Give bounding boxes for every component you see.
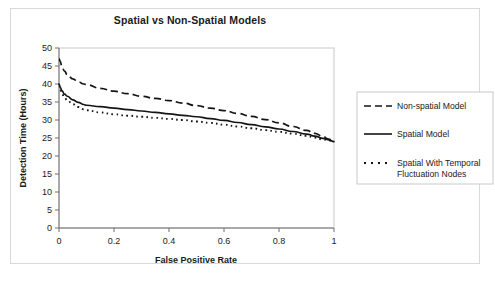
y-tick-label: 0 bbox=[47, 223, 52, 233]
y-tick-label: 5 bbox=[47, 205, 52, 215]
plot-axes bbox=[59, 48, 334, 228]
data-series-group bbox=[59, 59, 334, 142]
y-tick-label: 20 bbox=[42, 151, 52, 161]
chart-figure: Spatial vs Non-Spatial Models 0510152025… bbox=[0, 0, 495, 282]
legend-item-label-line2: Fluctuation Nodes bbox=[397, 169, 466, 179]
y-axis-ticks: 05101520253035404550 bbox=[42, 43, 59, 233]
y-tick-label: 25 bbox=[42, 133, 52, 143]
x-axis-ticks: 00.20.40.60.81 bbox=[56, 228, 336, 246]
y-tick-label: 30 bbox=[42, 115, 52, 125]
series-line-dotted bbox=[59, 85, 334, 141]
legend-item-label: Non-spatial Model bbox=[397, 101, 466, 111]
y-tick-label: 45 bbox=[42, 61, 52, 71]
y-tick-label: 10 bbox=[42, 187, 52, 197]
series-line-dashed bbox=[59, 59, 334, 142]
plot-area-box bbox=[59, 48, 334, 228]
x-axis-title: False Positive Rate bbox=[155, 255, 237, 265]
x-tick-label: 0.2 bbox=[108, 236, 121, 246]
y-tick-label: 40 bbox=[42, 79, 52, 89]
series-line-solid bbox=[59, 84, 334, 142]
x-tick-label: 0.4 bbox=[163, 236, 176, 246]
plot-canvas: 05101520253035404550 00.20.40.60.81 Dete… bbox=[0, 0, 495, 282]
y-tick-label: 35 bbox=[42, 97, 52, 107]
legend-item-label: Spatial With Temporal bbox=[397, 158, 481, 168]
legend: Non-spatial Model Spatial Model Spatial … bbox=[357, 92, 493, 184]
y-tick-label: 15 bbox=[42, 169, 52, 179]
legend-item-label: Spatial Model bbox=[397, 129, 449, 139]
y-tick-label: 50 bbox=[42, 43, 52, 53]
x-tick-label: 0 bbox=[56, 236, 61, 246]
x-tick-label: 0.6 bbox=[218, 236, 231, 246]
x-tick-label: 0.8 bbox=[273, 236, 286, 246]
x-tick-label: 1 bbox=[331, 236, 336, 246]
y-axis-title: Detection Time (Hours) bbox=[18, 89, 28, 188]
